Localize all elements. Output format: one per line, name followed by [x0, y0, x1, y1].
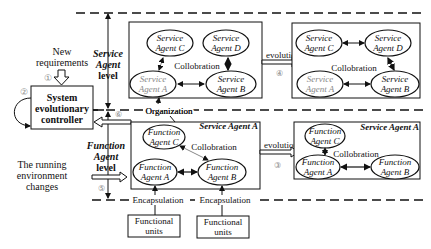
svg-text:Function: Function [138, 162, 172, 172]
svg-text:level: level [98, 70, 118, 81]
svg-text:Encapsulation: Encapsulation [133, 195, 184, 205]
svg-text:Function: Function [205, 162, 239, 172]
svg-text:Collobration: Collobration [174, 61, 220, 71]
svg-text:Agent D: Agent D [372, 43, 403, 53]
system-evolutionary-controller: System evolutionary controller [31, 86, 93, 129]
svg-text:⑥: ⑥ [115, 110, 122, 119]
svg-text:Agent A: Agent A [138, 84, 168, 94]
svg-text:Agent B: Agent B [380, 167, 410, 177]
svg-text:environment: environment [17, 170, 68, 181]
encapsulation-layer: Encapsulation Encapsulation [130, 186, 255, 216]
svg-text:①: ① [44, 73, 52, 83]
svg-text:Functional: Functional [135, 216, 174, 226]
svg-text:changes: changes [26, 181, 58, 192]
svg-text:Service: Service [218, 74, 244, 84]
svg-text:Organization: Organization [146, 106, 193, 116]
svg-text:③: ③ [274, 161, 281, 170]
svg-text:units: units [145, 226, 163, 236]
svg-text:Service: Service [140, 74, 166, 84]
svg-text:Function: Function [147, 127, 181, 137]
svg-text:Collobration: Collobration [191, 142, 237, 152]
svg-text:Collobration: Collobration [333, 149, 379, 159]
svg-text:⑤: ⑤ [98, 184, 105, 193]
svg-text:level: level [96, 162, 116, 173]
svg-text:Service Agent A: Service Agent A [199, 121, 258, 131]
svg-text:System: System [47, 92, 78, 103]
svg-text:Agent C: Agent C [303, 43, 334, 53]
service-agents-after: Service Agent C Service Agent D Service … [292, 23, 420, 98]
svg-text:Service: Service [157, 33, 183, 43]
svg-text:Function: Function [308, 126, 342, 136]
service-level-label: Service Agent level [93, 48, 124, 81]
svg-text:Agent B: Agent B [380, 84, 410, 94]
svg-text:Agent A: Agent A [305, 84, 335, 94]
svg-text:②: ② [20, 87, 28, 97]
feedback-arrow: ⑥ [94, 110, 131, 127]
svg-text:Functional: Functional [204, 217, 243, 227]
svg-text:Service Agent A: Service Agent A [360, 122, 419, 132]
svg-text:Agent B: Agent B [207, 172, 237, 182]
function-agents-before: Service Agent A Function Agent C Functio… [131, 121, 260, 189]
self-loop: ② [14, 87, 31, 126]
svg-text:Function: Function [301, 157, 335, 167]
svg-text:Agent D: Agent D [210, 43, 241, 53]
svg-text:Function: Function [378, 157, 412, 167]
svg-text:Collobration: Collobration [331, 63, 377, 73]
svg-text:Service: Service [306, 33, 332, 43]
svg-text:Agent C: Agent C [309, 136, 340, 146]
svg-text:The running: The running [17, 159, 66, 170]
svg-text:Agent C: Agent C [154, 43, 185, 53]
svg-text:units: units [214, 227, 232, 237]
svg-text:New: New [53, 46, 73, 57]
svg-text:evolutionary: evolutionary [35, 103, 89, 114]
svg-text:④: ④ [276, 69, 283, 78]
functional-units: Functional units Functional units [128, 215, 249, 238]
svg-text:Service: Service [382, 74, 408, 84]
svg-text:Service: Service [213, 33, 239, 43]
svg-text:Service: Service [93, 48, 124, 59]
svg-text:Agent A: Agent A [303, 167, 333, 177]
svg-text:Agent: Agent [93, 151, 120, 162]
svg-text:Function: Function [86, 140, 126, 151]
svg-text:controller: controller [41, 114, 84, 125]
svg-text:Agent C: Agent C [148, 137, 179, 147]
function-evolution-arrow: evolution ③ [260, 140, 299, 170]
function-agents-after: Service Agent A Function Agent C Functio… [294, 122, 420, 179]
svg-text:Service: Service [307, 74, 333, 84]
svg-text:Service: Service [375, 33, 401, 43]
down-arrow-icon [54, 70, 69, 85]
new-requirements-input: New requirements ① [36, 46, 88, 85]
svg-text:requirements: requirements [36, 57, 88, 68]
function-level-label: Function Agent level [86, 140, 126, 173]
service-agents-before: Service Agent C Service Agent D Service … [129, 22, 262, 98]
svg-text:Agent A: Agent A [140, 172, 170, 182]
evolution-diagram: Service Agent level Function Agent level… [0, 0, 431, 249]
svg-text:Encapsulation: Encapsulation [200, 195, 251, 205]
right-arrow-icon [92, 172, 127, 182]
svg-text:Agent: Agent [95, 59, 122, 70]
svg-text:Agent B: Agent B [216, 84, 246, 94]
